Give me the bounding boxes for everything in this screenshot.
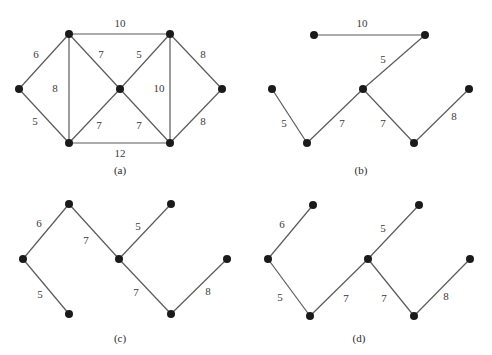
edge-weight-label: 5 [32, 115, 38, 127]
edge-c-tr [363, 35, 425, 89]
spanning-tree-panel-c: 675578(c) [19, 200, 231, 345]
edge-br-r [414, 259, 470, 316]
edge-weight-label: 7 [98, 48, 104, 60]
edge-weight-label: 12 [115, 147, 126, 159]
vertex-l [268, 85, 276, 93]
vertex-tl [310, 31, 318, 39]
graph-panel-a: 658107712571088(a) [15, 17, 226, 177]
edge-weight-label: 5 [37, 288, 43, 300]
edge-br-r [171, 259, 227, 314]
edge-tl-c [69, 34, 120, 89]
vertex-bl [306, 312, 314, 320]
edge-t-c [69, 204, 119, 259]
spanning-tree-panel-d: 655778(d) [264, 201, 474, 345]
spanning-tree-figure: 658107712571088(a) 1055778(b) 675578(c) … [0, 0, 492, 355]
panel-caption: (d) [353, 332, 366, 345]
edge-l-bl [268, 259, 310, 316]
vertex-tr [166, 30, 174, 38]
vertex-tr [167, 200, 175, 208]
edge-weight-label: 5 [380, 222, 386, 234]
edge-br-r [170, 89, 222, 143]
vertex-c [116, 85, 124, 93]
edge-l-tl [268, 205, 313, 259]
edge-br-r [414, 89, 469, 143]
edge-weight-label: 8 [200, 48, 206, 60]
edge-weight-label: 7 [136, 119, 142, 131]
edge-weight-label: 6 [36, 217, 42, 229]
edge-weight-label: 10 [154, 82, 166, 94]
panel-caption: (c) [114, 332, 127, 345]
vertex-t [65, 200, 73, 208]
edge-weight-label: 5 [380, 53, 386, 65]
vertex-r [223, 255, 231, 263]
vertex-br [410, 139, 418, 147]
spanning-tree-panel-b: 1055778(b) [268, 17, 473, 177]
edge-weight-label: 10 [357, 17, 369, 29]
edge-weight-label: 7 [133, 286, 139, 298]
vertex-br [410, 312, 418, 320]
vertex-l [264, 255, 272, 263]
edge-c-tr [368, 205, 419, 259]
edge-weight-label: 8 [200, 115, 206, 127]
edge-c-br [363, 89, 414, 143]
edge-weight-label: 7 [339, 117, 345, 129]
vertex-l [15, 85, 23, 93]
vertex-tl [309, 201, 317, 209]
edge-bl-c [310, 259, 368, 316]
edge-l-bl [272, 89, 307, 143]
edge-c-tr [119, 204, 171, 259]
edge-weight-label: 10 [115, 17, 127, 29]
vertex-l [19, 255, 27, 263]
edge-l-t [23, 204, 69, 259]
vertex-r [465, 85, 473, 93]
vertex-c [359, 85, 367, 93]
edge-c-br [120, 89, 170, 143]
edge-l-bl [23, 259, 69, 314]
edge-l-tl [19, 34, 69, 89]
panel-caption: (a) [114, 164, 127, 177]
edge-weight-label: 8 [52, 82, 58, 94]
edge-weight-label: 7 [343, 292, 349, 304]
edge-weight-label: 7 [83, 234, 89, 246]
edge-weight-label: 5 [277, 291, 283, 303]
vertex-c [115, 255, 123, 263]
edge-weight-label: 8 [443, 290, 449, 302]
vertex-r [466, 255, 474, 263]
edge-weight-label: 5 [135, 220, 141, 232]
edge-c-br [119, 259, 171, 314]
edge-weight-label: 6 [279, 218, 285, 230]
edge-weight-label: 8 [205, 285, 211, 297]
vertex-bl [303, 139, 311, 147]
edge-weight-label: 7 [96, 119, 102, 131]
edge-c-br [368, 259, 414, 316]
vertex-c [364, 255, 372, 263]
edge-weight-label: 5 [136, 48, 142, 60]
edge-weight-label: 7 [381, 292, 387, 304]
edge-tr-r [170, 34, 222, 89]
edge-weight-label: 8 [451, 110, 457, 122]
edge-bl-c [69, 89, 120, 143]
vertex-bl [65, 139, 73, 147]
edge-weight-label: 6 [33, 48, 39, 60]
vertex-tr [421, 31, 429, 39]
vertex-bl [65, 310, 73, 318]
vertex-r [218, 85, 226, 93]
edge-weight-label: 5 [281, 117, 287, 129]
edge-bl-c [307, 89, 363, 143]
vertex-br [166, 139, 174, 147]
edge-weight-label: 7 [380, 117, 386, 129]
panel-caption: (b) [355, 164, 368, 177]
edge-l-bl [19, 89, 69, 143]
vertex-tr [415, 201, 423, 209]
vertex-tl [65, 30, 73, 38]
vertex-br [167, 310, 175, 318]
